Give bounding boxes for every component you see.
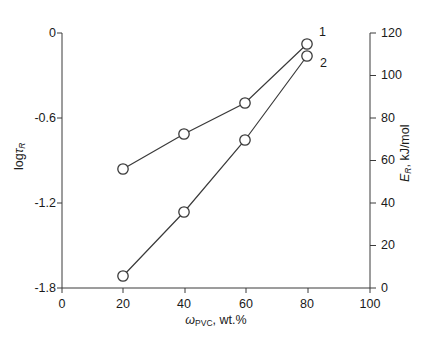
series-1-point bbox=[179, 129, 189, 139]
series-1-point bbox=[240, 98, 250, 108]
series-2-line bbox=[123, 56, 307, 276]
series-1-point bbox=[302, 39, 312, 49]
series-2-point bbox=[302, 51, 312, 61]
series-1-line bbox=[123, 44, 307, 169]
series-2-point bbox=[240, 135, 250, 145]
series-1-group bbox=[118, 39, 312, 174]
axes-group bbox=[57, 33, 376, 293]
series-2-point bbox=[118, 271, 128, 281]
series-2-point bbox=[179, 207, 189, 217]
series-1-point bbox=[118, 164, 128, 174]
plot-canvas bbox=[0, 0, 423, 340]
series-2-group bbox=[118, 51, 312, 281]
chart-figure: 0 -0.6 -1.2 -1.8 120 100 80 60 40 20 0 0… bbox=[0, 0, 423, 340]
